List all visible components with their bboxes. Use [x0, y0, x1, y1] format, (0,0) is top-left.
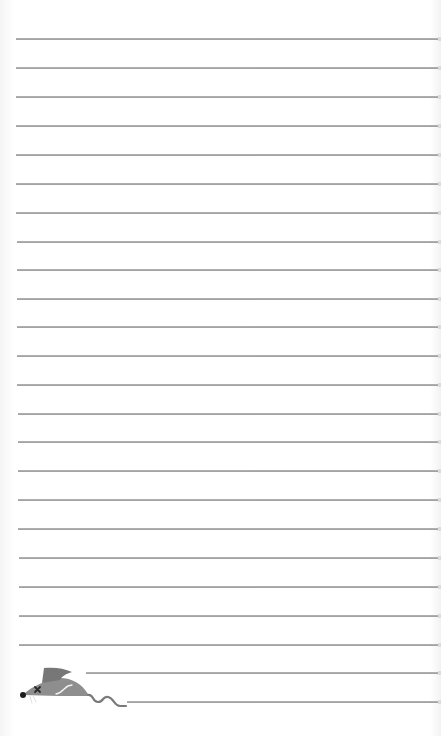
- ruled-line: [18, 441, 441, 443]
- ruled-line: [127, 701, 441, 703]
- ruled-line: [16, 38, 441, 40]
- ruled-line: [19, 615, 441, 617]
- notepaper: [0, 0, 441, 736]
- ruled-line: [17, 298, 441, 300]
- ruled-line: [16, 96, 441, 98]
- ruled-line: [17, 269, 441, 271]
- ruled-line: [18, 413, 441, 415]
- ruled-line: [16, 125, 441, 127]
- ruled-line: [16, 183, 441, 185]
- ruled-line: [18, 470, 441, 472]
- ruled-line: [17, 241, 441, 243]
- ruled-line: [18, 499, 441, 501]
- ruled-line: [19, 644, 441, 646]
- ruled-line: [19, 586, 441, 588]
- ruled-line: [16, 154, 441, 156]
- ruled-line: [18, 528, 441, 530]
- ruled-line: [17, 326, 441, 328]
- ruled-line: [86, 672, 441, 674]
- ruled-line: [16, 212, 441, 214]
- ruled-line: [19, 557, 441, 559]
- ruled-line: [17, 384, 441, 386]
- ruled-line: [17, 355, 441, 357]
- mouse-icon: [14, 656, 134, 716]
- ruled-line: [16, 67, 441, 69]
